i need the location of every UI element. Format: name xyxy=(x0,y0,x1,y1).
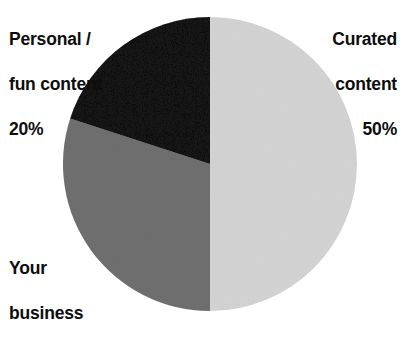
pie-label-curated-line1: Curated xyxy=(332,28,397,50)
pie-label-personal-line1: Personal / xyxy=(9,28,102,50)
pie-label-personal-line2: fun content xyxy=(9,73,102,95)
pie-chart-figure: Personal / fun content 20% Curated conte… xyxy=(0,0,405,337)
pie-label-personal-fun-content: Personal / fun content 20% xyxy=(9,6,102,163)
pie-label-business-line1: Your xyxy=(9,257,83,279)
pie-label-curated-content: Curated content 50% xyxy=(332,6,397,163)
pie-label-your-business-content: Your business content 30% xyxy=(9,235,83,337)
pie-label-business-line2: business xyxy=(9,302,83,324)
pie-label-curated-line2: content xyxy=(332,73,397,95)
pie-label-curated-percent: 50% xyxy=(332,118,397,140)
pie-label-personal-percent: 20% xyxy=(9,118,102,140)
